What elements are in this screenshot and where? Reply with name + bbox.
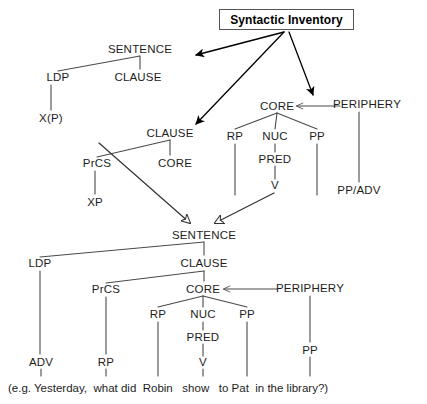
node-pp-example-1: PP <box>239 308 255 320</box>
node-prcs-example: PrCS <box>92 283 120 295</box>
node-rp-example-2: RP <box>98 356 114 368</box>
sentence-template-branches <box>51 56 140 110</box>
syntactic-inventory-diagram <box>0 0 427 404</box>
node-core-expansion: CORE <box>260 100 294 112</box>
node-rp-example-1: RP <box>150 308 166 320</box>
page-title: Syntactic Inventory <box>230 13 343 27</box>
gloss-word-4: to Pat <box>219 382 249 394</box>
node-pred-template: PRED <box>259 153 292 165</box>
node-xp-template: XP <box>87 196 103 208</box>
node-v-template: V <box>271 179 279 191</box>
node-prcs-template: PrCS <box>83 157 111 169</box>
node-core-in-clause: CORE <box>158 157 192 169</box>
gloss-word-0: (e.g. Yesterday, <box>8 382 87 394</box>
example-tree-branches <box>40 242 310 376</box>
node-periphery-example: PERIPHERY <box>276 282 344 294</box>
node-xp-paren-template: X(P) <box>39 112 63 124</box>
title-to-core-arrow <box>289 32 313 95</box>
node-v-example: V <box>199 356 207 368</box>
title-box: Syntactic Inventory <box>219 9 354 30</box>
node-pp-example-2: PP <box>302 344 318 356</box>
node-ldp-template: LDP <box>47 71 70 83</box>
node-pp-template: PP <box>309 130 325 142</box>
node-periphery-template: PERIPHERY <box>333 98 401 110</box>
gloss-word-2: Robin <box>143 382 173 394</box>
node-pred-example: PRED <box>187 331 220 343</box>
node-clause-example: CLAUSE <box>180 257 227 269</box>
core-expansion-arrow <box>215 193 274 223</box>
node-ldp-example: LDP <box>29 257 52 269</box>
node-nuc-example: NUC <box>190 308 216 320</box>
gloss-word-3: show <box>182 382 209 394</box>
node-nuc-template: NUC <box>262 130 288 142</box>
title-to-sentence-arrow <box>196 32 284 55</box>
node-sentence-template: SENTENCE <box>108 43 172 55</box>
gloss-word-5: in the library?) <box>255 382 328 394</box>
gloss-word-1: what did <box>93 382 136 394</box>
node-clause-expansion: CLAUSE <box>146 127 193 139</box>
example-gloss: (e.g. Yesterday, what did Robin show to … <box>8 382 328 394</box>
node-core-example: CORE <box>186 283 220 295</box>
node-rp-template: RP <box>227 130 243 142</box>
clause-expansion-arrow <box>99 143 190 223</box>
node-clause-template: CLAUSE <box>114 71 161 83</box>
node-adv-example: ADV <box>29 356 53 368</box>
node-pp-adv-template: PP/ADV <box>337 184 380 196</box>
node-sentence-example: SENTENCE <box>172 229 236 241</box>
core-template-branches <box>235 112 359 195</box>
